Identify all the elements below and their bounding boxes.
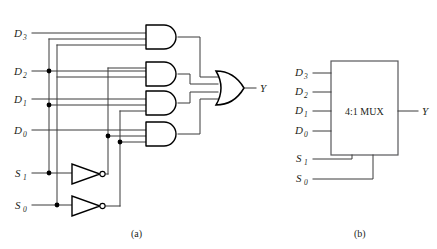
inverter-s1-bubble-icon bbox=[100, 171, 105, 176]
junction-dot-s1-mid bbox=[47, 103, 52, 108]
label-a-d1: D bbox=[13, 93, 22, 105]
panel-b-group: 4:1 MUX D 3 D 2 D 1 D 0 S 1 S 0 Y bbox=[294, 61, 430, 187]
inverter-s0 bbox=[72, 196, 100, 216]
and-gate-2 bbox=[146, 62, 176, 86]
label-b-d1-sub: 1 bbox=[304, 110, 308, 119]
junction-dot-s1-upper bbox=[47, 69, 52, 74]
and-gate-0 bbox=[146, 122, 176, 146]
label-a-s0: S bbox=[15, 199, 21, 211]
label-b-s0: S bbox=[296, 172, 302, 184]
label-b-d2-sub: 2 bbox=[304, 91, 308, 100]
junction-dot-s1 bbox=[47, 171, 52, 176]
junction-dot-s0 bbox=[55, 203, 60, 208]
wire-and2-to-or bbox=[178, 74, 218, 84]
mux-box-label: 4:1 MUX bbox=[345, 106, 384, 117]
or-gate bbox=[216, 71, 244, 105]
label-a-s1-sub: 1 bbox=[23, 173, 27, 182]
label-b-d2: D bbox=[294, 85, 303, 97]
label-a-d0: D bbox=[13, 124, 22, 136]
label-a-d2-sub: 2 bbox=[23, 71, 27, 80]
wire-and0-to-or bbox=[178, 99, 218, 134]
circuit-diagram-svg: D 3 D 2 D 1 D 0 S 1 S 0 Y bbox=[0, 0, 437, 249]
label-a-d1-sub: 1 bbox=[23, 99, 27, 108]
wire-b-s1 bbox=[313, 155, 352, 159]
label-b-y: Y bbox=[422, 105, 430, 117]
label-a-s0-sub: 0 bbox=[23, 205, 27, 214]
junction-dot-s1bar bbox=[106, 134, 111, 139]
label-b-s1-sub: 1 bbox=[304, 158, 308, 167]
label-a-d2: D bbox=[13, 65, 22, 77]
junction-dot-s0bar bbox=[118, 140, 123, 145]
label-b-d0: D bbox=[294, 124, 303, 136]
inverter-s1 bbox=[72, 164, 100, 184]
caption-panel-a: (a) bbox=[131, 228, 142, 240]
figure-multiplexer: D 3 D 2 D 1 D 0 S 1 S 0 Y bbox=[0, 0, 437, 249]
and-gate-1 bbox=[146, 91, 176, 115]
wire-and1-to-or bbox=[178, 92, 218, 103]
label-a-d3: D bbox=[13, 27, 22, 39]
label-a-y: Y bbox=[260, 82, 268, 94]
inverter-s0-bubble-icon bbox=[100, 203, 105, 208]
label-a-d0-sub: 0 bbox=[23, 130, 27, 139]
label-b-d3: D bbox=[294, 66, 303, 78]
label-b-d1: D bbox=[294, 104, 303, 116]
label-b-s1: S bbox=[296, 152, 302, 164]
label-a-s1: S bbox=[15, 167, 21, 179]
label-b-s0-sub: 0 bbox=[304, 178, 308, 187]
and-gate-3 bbox=[146, 25, 176, 49]
wire-and3-to-or bbox=[178, 37, 218, 77]
label-b-d0-sub: 0 bbox=[304, 130, 308, 139]
label-a-d3-sub: 3 bbox=[22, 33, 27, 42]
caption-panel-b: (b) bbox=[354, 228, 366, 240]
panel-a-group: D 3 D 2 D 1 D 0 S 1 S 0 Y bbox=[13, 25, 268, 216]
label-b-d3-sub: 3 bbox=[303, 72, 308, 81]
